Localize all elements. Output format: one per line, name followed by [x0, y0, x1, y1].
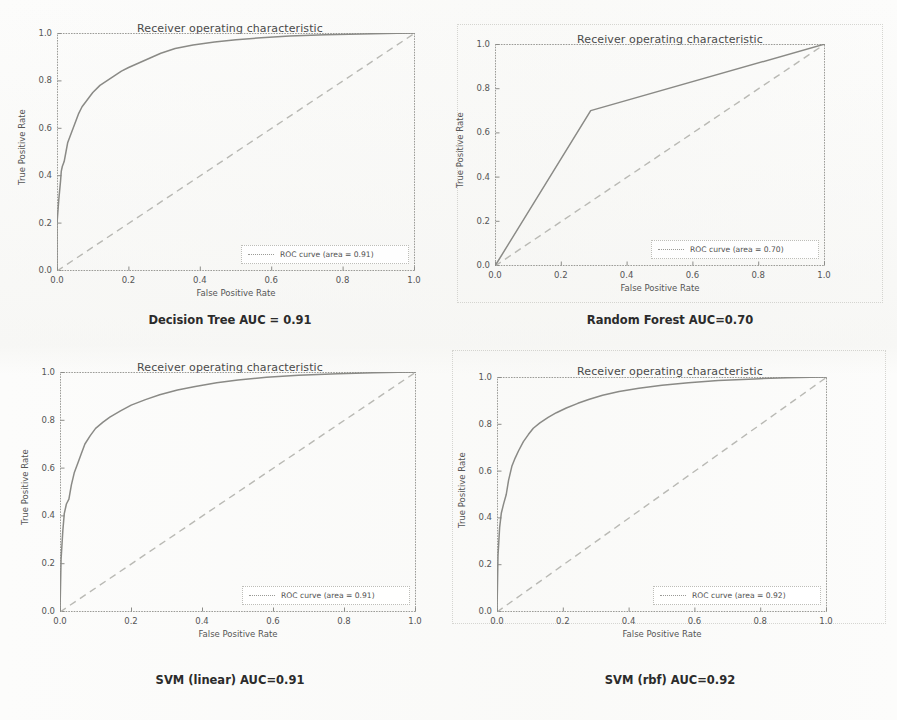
y-axis-label-svm-linear: True Positive Rate	[20, 449, 30, 525]
y-tick-random-forest-1: 0.2	[467, 216, 490, 226]
figure-page: Receiver operating characteristic0.00.20…	[0, 0, 897, 720]
y-tick-random-forest-3: 0.6	[467, 127, 490, 137]
y-tick-decision-tree-1: 0.2	[29, 218, 52, 228]
x-axis-label-random-forest: False Positive Rate	[495, 283, 825, 293]
legend-random-forest[interactable]: ROC curve (area = 0.70)	[651, 240, 819, 259]
legend-label-random-forest: ROC curve (area = 0.70)	[690, 245, 784, 254]
x-tick-svm-rbf-1: 0.2	[549, 616, 577, 626]
y-tick-svm-linear-0: 0.0	[32, 606, 55, 616]
x-tick-svm-linear-3: 0.6	[259, 616, 287, 626]
y-axis-label-svm-rbf: True Positive Rate	[457, 452, 467, 528]
x-tick-svm-linear-1: 0.2	[117, 616, 145, 626]
x-tick-svm-rbf-5: 1.0	[812, 616, 840, 626]
y-tick-decision-tree-3: 0.6	[29, 123, 52, 133]
x-axis-label-svm-rbf: False Positive Rate	[497, 629, 827, 639]
x-tick-svm-linear-4: 0.8	[330, 616, 358, 626]
y-tick-svm-linear-2: 0.4	[32, 510, 55, 520]
y-tick-svm-linear-4: 0.8	[32, 415, 55, 425]
legend-line-swatch-random-forest	[658, 249, 684, 250]
x-tick-random-forest-1: 0.2	[547, 270, 575, 280]
x-tick-decision-tree-1: 0.2	[114, 275, 142, 285]
legend-label-decision-tree: ROC curve (area = 0.91)	[280, 250, 374, 259]
x-tick-decision-tree-4: 0.8	[329, 275, 357, 285]
legend-svm-rbf[interactable]: ROC curve (area = 0.92)	[653, 586, 821, 605]
subplot-grid: Receiver operating characteristic0.00.20…	[0, 0, 897, 720]
x-tick-decision-tree-0: 0.0	[43, 275, 71, 285]
y-tick-random-forest-2: 0.4	[467, 172, 490, 182]
roc-plot-decision-tree	[57, 33, 415, 271]
legend-svm-linear[interactable]: ROC curve (area = 0.91)	[242, 586, 410, 605]
roc-plot-svm-linear	[60, 372, 416, 612]
x-tick-random-forest-3: 0.6	[678, 270, 706, 280]
x-axis-label-decision-tree: False Positive Rate	[57, 288, 415, 298]
y-tick-svm-rbf-4: 0.8	[469, 419, 492, 429]
x-tick-random-forest-5: 1.0	[810, 270, 838, 280]
x-tick-random-forest-0: 0.0	[481, 270, 509, 280]
x-tick-svm-linear-0: 0.0	[46, 616, 74, 626]
chance-line	[497, 377, 827, 612]
y-tick-svm-rbf-3: 0.6	[469, 466, 492, 476]
x-tick-svm-rbf-2: 0.4	[615, 616, 643, 626]
plot-area-decision-tree	[57, 33, 415, 271]
x-axis-label-svm-linear: False Positive Rate	[60, 629, 416, 639]
legend-line-swatch-svm-rbf	[660, 595, 686, 596]
legend-decision-tree[interactable]: ROC curve (area = 0.91)	[241, 245, 409, 264]
y-tick-svm-rbf-5: 1.0	[469, 372, 492, 382]
caption-svm-linear: SVM (linear) AUC=0.91	[30, 673, 430, 687]
x-tick-svm-linear-2: 0.4	[188, 616, 216, 626]
x-tick-svm-rbf-4: 0.8	[746, 616, 774, 626]
plot-area-svm-linear	[60, 372, 416, 612]
legend-line-swatch-decision-tree	[248, 254, 274, 255]
legend-label-svm-rbf: ROC curve (area = 0.92)	[692, 591, 786, 600]
x-tick-random-forest-2: 0.4	[613, 270, 641, 280]
y-tick-svm-linear-1: 0.2	[32, 558, 55, 568]
roc-plot-svm-rbf	[497, 377, 827, 612]
y-tick-random-forest-0: 0.0	[467, 260, 490, 270]
x-tick-random-forest-4: 0.8	[744, 270, 772, 280]
y-tick-svm-linear-5: 1.0	[32, 367, 55, 377]
legend-line-swatch-svm-linear	[249, 595, 275, 596]
plot-area-svm-rbf	[497, 377, 827, 612]
y-tick-decision-tree-4: 0.8	[29, 75, 52, 85]
chance-line	[57, 33, 415, 271]
y-tick-decision-tree-0: 0.0	[29, 265, 52, 275]
y-tick-random-forest-4: 0.8	[467, 83, 490, 93]
y-tick-decision-tree-5: 1.0	[29, 28, 52, 38]
caption-random-forest: Random Forest AUC=0.70	[470, 313, 870, 327]
roc-plot-random-forest	[495, 44, 825, 266]
y-axis-label-random-forest: True Positive Rate	[455, 112, 465, 188]
y-axis-label-decision-tree: True Positive Rate	[17, 109, 27, 185]
caption-decision-tree: Decision Tree AUC = 0.91	[30, 313, 430, 327]
y-tick-svm-linear-3: 0.6	[32, 463, 55, 473]
y-tick-svm-rbf-1: 0.2	[469, 559, 492, 569]
x-tick-decision-tree-2: 0.4	[186, 275, 214, 285]
legend-label-svm-linear: ROC curve (area = 0.91)	[281, 591, 375, 600]
x-tick-decision-tree-5: 1.0	[400, 275, 428, 285]
caption-svm-rbf: SVM (rbf) AUC=0.92	[470, 673, 870, 687]
chance-line	[60, 372, 416, 612]
x-tick-svm-rbf-3: 0.6	[680, 616, 708, 626]
y-tick-svm-rbf-0: 0.0	[469, 606, 492, 616]
x-tick-decision-tree-3: 0.6	[257, 275, 285, 285]
y-tick-decision-tree-2: 0.4	[29, 170, 52, 180]
plot-area-random-forest	[495, 44, 825, 266]
y-tick-random-forest-5: 1.0	[467, 39, 490, 49]
x-tick-svm-linear-5: 1.0	[401, 616, 429, 626]
chance-line	[495, 44, 825, 266]
y-tick-svm-rbf-2: 0.4	[469, 512, 492, 522]
x-tick-svm-rbf-0: 0.0	[483, 616, 511, 626]
